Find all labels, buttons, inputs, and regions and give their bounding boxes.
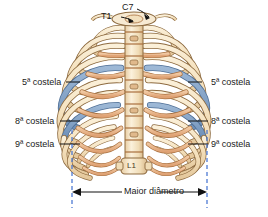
label-l1: L1: [127, 161, 136, 171]
arrow-right-icon: [198, 188, 207, 196]
label-c7: C7: [122, 2, 134, 12]
label-rib-5-left: 5ª costela: [22, 77, 61, 87]
label-rib-8-right: 8ª costela: [211, 116, 250, 126]
label-rib-9-left: 9ª costela: [15, 139, 54, 149]
thoracic-cage-figure: C7 T1 L1 5ª costela 8ª costela 9ª costel…: [0, 0, 268, 217]
label-rib-8-left: 8ª costela: [15, 116, 54, 126]
arrow-left-icon: [72, 188, 81, 196]
label-t1: T1: [101, 11, 112, 21]
label-rib-9-right: 9ª costela: [211, 139, 250, 149]
ribs-right-side: [142, 28, 208, 178]
label-maior-diametro: Maior diâmetro: [124, 186, 184, 196]
label-rib-5-right: 5ª costela: [211, 77, 250, 87]
ribs-left-side: [60, 28, 126, 178]
rib-cage-illustration: [0, 0, 268, 217]
